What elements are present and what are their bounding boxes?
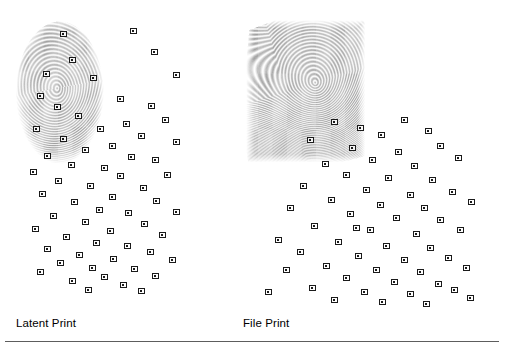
file-print-label: File Print xyxy=(243,316,289,330)
footer-divider xyxy=(5,341,499,342)
latent-print-panel xyxy=(14,16,196,312)
latent-print-image xyxy=(14,16,196,312)
fingerprint-comparison-figure: Latent Print File Print xyxy=(0,0,505,353)
file-print-image xyxy=(243,18,491,312)
latent-print-label: Latent Print xyxy=(16,316,76,330)
file-print-panel xyxy=(243,18,491,312)
